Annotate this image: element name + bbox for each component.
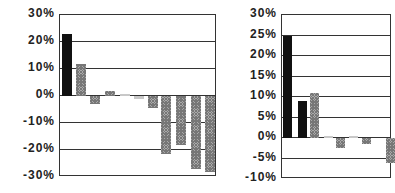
plot-area [59,14,216,176]
bar [283,36,292,139]
gridline [60,41,215,42]
bar [336,138,345,148]
y-tick-label: 10% [0,60,55,74]
y-tick-label: 30% [240,6,277,20]
y-tick-label: 0% [0,87,55,101]
bar [90,96,100,104]
bar [161,96,171,154]
y-tick-label: 15% [240,68,277,82]
gridline [282,35,390,36]
bar [205,96,215,172]
y-tick-label: 30% [0,6,55,20]
y-tick-label: 0% [240,129,277,143]
y-tick-label: 20% [240,47,277,61]
gridline [282,158,390,159]
bar [298,101,307,138]
gridline [282,96,390,97]
y-tick-label: -5% [240,150,277,164]
bar [134,96,144,99]
bar [386,138,395,163]
bar [105,91,115,96]
left-bar-chart: 30%20%10%0%-10%-20%-30% [0,0,220,193]
bar [349,136,358,138]
bar [120,94,130,96]
y-tick-label: 20% [0,33,55,47]
plot-area [281,14,391,178]
bar [62,34,72,96]
y-tick-label: -20% [0,141,55,155]
y-tick-label: 5% [240,109,277,123]
right-bar-chart: 30%25%20%15%10%5%0%-5%-10% [240,0,376,193]
bar [191,96,201,169]
bar [148,96,158,108]
bar [176,96,186,145]
y-tick-label: -10% [240,170,277,184]
y-tick-label: 25% [240,27,277,41]
bar [362,138,371,144]
bar [76,64,86,96]
bar [324,136,333,138]
y-tick-label: -30% [0,168,55,182]
gridline [282,55,390,56]
gridline [282,76,390,77]
y-tick-label: 10% [240,88,277,102]
y-tick-label: -10% [0,114,55,128]
bar [310,93,319,138]
